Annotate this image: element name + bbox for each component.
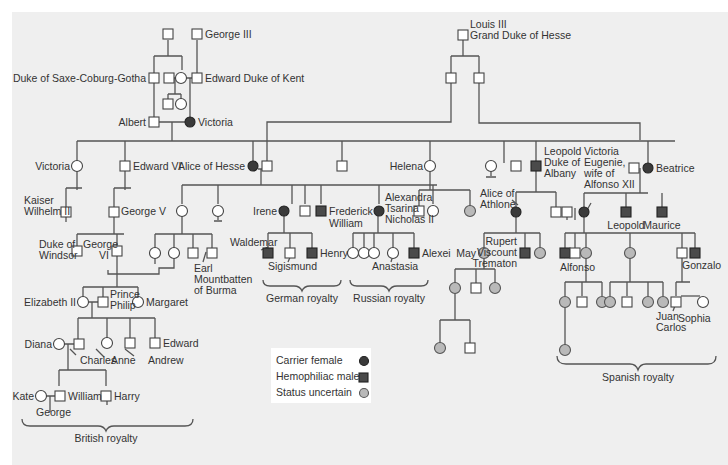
label-rupert-3: Trematon bbox=[472, 257, 517, 269]
label-alfonso: Alfonso bbox=[560, 261, 595, 273]
label-george-iii: George III bbox=[205, 28, 252, 40]
pedigree-svg: George III Duke of Saxe-Coburg-Gotha Edw… bbox=[12, 12, 728, 465]
label-alice-athlone-2: Athlone bbox=[480, 198, 516, 210]
label-andrew: Andrew bbox=[148, 354, 184, 366]
label-albert: Albert bbox=[119, 116, 147, 128]
label-german-royalty: German royalty bbox=[266, 292, 339, 304]
label-anne: Anne bbox=[111, 354, 136, 366]
label-louis-iii-2: Grand Duke of Hesse bbox=[470, 29, 571, 41]
label-william: William bbox=[68, 390, 102, 402]
label-alexei: Alexei bbox=[422, 247, 451, 259]
label-kaiser-2: Wilhelm II bbox=[24, 205, 70, 217]
label-frederick-1: Frederick bbox=[329, 205, 374, 217]
label-elizabeth-ii: Elizabeth II bbox=[24, 296, 76, 308]
label-beatrice: Beatrice bbox=[656, 162, 695, 174]
label-russian-royalty: Russian royalty bbox=[353, 292, 426, 304]
label-victoria-jr: Victoria bbox=[35, 160, 70, 172]
hemophiliac-male-icon bbox=[359, 373, 368, 382]
legend-carrier-label: Carrier female bbox=[276, 354, 343, 366]
label-sophia: Sophia bbox=[678, 312, 711, 324]
label-sigismund: Sigismund bbox=[268, 260, 317, 272]
label-george: George bbox=[36, 406, 71, 418]
label-irene: Irene bbox=[253, 205, 277, 217]
label-waldemar: Waldemar bbox=[230, 236, 278, 248]
label-british-royalty: British royalty bbox=[74, 432, 138, 444]
label-vic-eug-4: Alfonso XII bbox=[584, 178, 635, 190]
label-alexandra-3: Nicholas II bbox=[385, 213, 434, 225]
label-edward-kent: Edward Duke of Kent bbox=[205, 72, 304, 84]
label-spanish-royalty: Spanish royalty bbox=[602, 371, 675, 383]
label-edward: Edward bbox=[163, 337, 199, 349]
connector-lines bbox=[45, 40, 700, 412]
label-diana: Diana bbox=[25, 338, 53, 350]
label-duke-saxe: Duke of Saxe-Coburg-Gotha bbox=[13, 72, 146, 84]
label-henry: Henry bbox=[320, 247, 349, 259]
label-maurice: Maurice bbox=[643, 219, 681, 231]
label-alice-hesse: Alice of Hesse bbox=[178, 160, 245, 172]
group-labels: German royalty Russian royalty British r… bbox=[74, 292, 674, 444]
label-harry: Harry bbox=[114, 390, 140, 402]
label-edward-vi: Edward VI bbox=[133, 160, 181, 172]
legend: Carrier female Hemophiliac male Status u… bbox=[271, 348, 371, 403]
status-uncertain-icon bbox=[360, 389, 369, 398]
label-leopold-jr: Leopold bbox=[607, 219, 645, 231]
label-philip-2: Philip bbox=[110, 299, 136, 311]
label-victoria: Victoria bbox=[198, 116, 233, 128]
legend-uncertain-label: Status uncertain bbox=[276, 386, 352, 398]
label-helena: Helena bbox=[390, 160, 423, 172]
legend-hemophiliac-label: Hemophiliac male bbox=[276, 370, 360, 382]
label-frederick-2: William bbox=[329, 217, 363, 229]
label-gonzalo: Gonzalo bbox=[682, 259, 721, 271]
label-leopold-3: Albany bbox=[544, 167, 577, 179]
carrier-female-icon bbox=[360, 357, 369, 366]
pedigree-chart: George III Duke of Saxe-Coburg-Gotha Edw… bbox=[12, 12, 728, 465]
label-kate: Kate bbox=[12, 390, 34, 402]
label-margaret: Margaret bbox=[146, 296, 188, 308]
label-duke-windsor-2: Windsor bbox=[39, 249, 78, 261]
label-george-v: George V bbox=[121, 205, 166, 217]
label-george-vi-2: VI bbox=[99, 249, 109, 261]
label-anastasia: Anastasia bbox=[372, 260, 418, 272]
label-earl-3: of Burma bbox=[194, 284, 237, 296]
